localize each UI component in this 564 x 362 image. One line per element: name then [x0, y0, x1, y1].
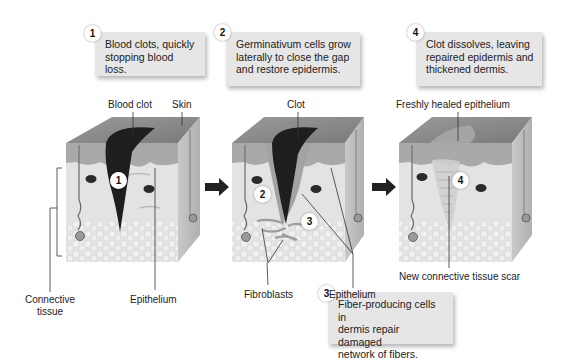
- tissue-block-2: [232, 112, 364, 288]
- step-3-text-line2: dermis repair damaged: [338, 323, 445, 348]
- label-epithelium-1: Epithelium: [130, 294, 177, 306]
- step-4-badge: 4: [407, 24, 424, 41]
- step-2-callout: Germinativum cells grow laterally to clo…: [226, 32, 360, 86]
- step-1-text-line1: Blood clots, quickly: [105, 38, 197, 51]
- tissue-block-1: [50, 112, 200, 292]
- step-4-text-line3: thickened dermis.: [426, 63, 534, 76]
- step-3-text-line1: Fiber-producing cells in: [338, 298, 445, 323]
- arrow-right-icon: [205, 178, 229, 196]
- step-1-text-line2: stopping blood loss.: [105, 51, 197, 76]
- label-fibroblasts: Fibroblasts: [244, 289, 293, 301]
- step-2-badge: 2: [214, 24, 231, 41]
- label-skin: Skin: [172, 99, 191, 111]
- label-epithelium-2: Epithelium: [329, 289, 376, 301]
- tissue-block-3: [399, 112, 532, 268]
- step-1-callout: Blood clots, quickly stopping blood loss…: [95, 32, 205, 76]
- step-4-text-line2: repaired epidermis and: [426, 51, 534, 64]
- label-connective-line1: Connective: [22, 294, 78, 306]
- step-2-text-line3: and restore epidermis.: [236, 63, 352, 76]
- label-new-connective-tissue-scar: New connective tissue scar: [399, 271, 520, 283]
- step-1-badge: 1: [84, 25, 101, 42]
- marker-2: 2: [254, 186, 271, 203]
- step-3-text-line3: network of fibers.: [338, 348, 445, 361]
- label-connective-tissue: Connective tissue: [22, 294, 78, 318]
- step-2-text-line1: Germinativum cells grow: [236, 38, 352, 51]
- step-2-text-line2: laterally to close the gap: [236, 51, 352, 64]
- step-4-callout: Clot dissolves, leaving repaired epiderm…: [416, 32, 542, 86]
- label-blood-clot: Blood clot: [108, 99, 152, 111]
- label-connective-line2: tissue: [22, 306, 78, 318]
- marker-3: 3: [301, 213, 318, 230]
- label-freshly-healed-epithelium: Freshly healed epithelium: [396, 99, 510, 111]
- label-clot: Clot: [287, 99, 305, 111]
- arrow-right-icon: [372, 178, 396, 196]
- marker-1: 1: [110, 172, 127, 189]
- step-4-text-line1: Clot dissolves, leaving: [426, 38, 534, 51]
- marker-4: 4: [452, 172, 469, 189]
